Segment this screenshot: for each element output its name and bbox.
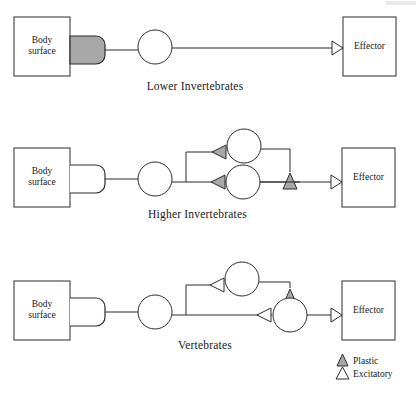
row-caption-lower-invertebrates: Lower Invertebrates bbox=[110, 80, 280, 92]
effector-label: Effector bbox=[342, 305, 395, 316]
sensory-interneuron bbox=[138, 295, 172, 329]
synapse-effector-excitatory bbox=[332, 41, 343, 55]
receptor-excitatory-shape bbox=[70, 298, 105, 326]
sensory-interneuron bbox=[138, 162, 172, 196]
axon-upper-to-lower-path bbox=[261, 149, 290, 172]
axon-branch-to-upper bbox=[186, 285, 212, 315]
synapse-upper-input-plastic bbox=[212, 145, 226, 159]
lower-interneuron bbox=[226, 165, 260, 199]
legend bbox=[336, 354, 349, 379]
synapse-upper-to-lower-plastic bbox=[283, 173, 297, 189]
motor-interneuron bbox=[273, 298, 307, 332]
effector-label: Effector bbox=[342, 172, 395, 183]
legend-excitatory-triangle-icon bbox=[336, 367, 349, 379]
receptor-excitatory-shape bbox=[70, 165, 105, 193]
upper-interneuron bbox=[227, 129, 261, 163]
axon-upper-to-lower-path bbox=[259, 282, 290, 288]
effector-label: Effector bbox=[343, 41, 396, 52]
synapse-lower-input-plastic bbox=[211, 175, 225, 189]
body-surface-label: Body surface bbox=[14, 299, 70, 321]
body-surface-label: Body surface bbox=[14, 35, 70, 57]
upper-interneuron bbox=[225, 262, 259, 296]
synapse-effector-excitatory bbox=[331, 175, 342, 189]
synapse-upper-input-excitatory bbox=[210, 278, 224, 292]
row-caption-vertebrates: Vertebrates bbox=[140, 339, 270, 351]
interneuron bbox=[138, 30, 172, 64]
row-vertebrates bbox=[14, 262, 395, 340]
row-lower-invertebrates bbox=[14, 17, 396, 76]
axon-branch-to-upper bbox=[186, 152, 214, 182]
row-higher-invertebrates bbox=[14, 129, 395, 207]
row-caption-higher-invertebrates: Higher Invertebrates bbox=[105, 208, 290, 220]
legend-plastic-triangle-icon bbox=[337, 354, 348, 366]
scan-artifact bbox=[386, 1, 416, 5]
legend-excitatory-label: Excitatory bbox=[353, 369, 393, 380]
legend-plastic-label: Plastic bbox=[353, 356, 378, 367]
body-surface-label: Body surface bbox=[14, 166, 70, 188]
synapse-effector-excitatory bbox=[331, 308, 342, 322]
receptor-plastic-shape bbox=[70, 36, 105, 64]
synapse-lower-input-excitatory bbox=[257, 308, 271, 322]
